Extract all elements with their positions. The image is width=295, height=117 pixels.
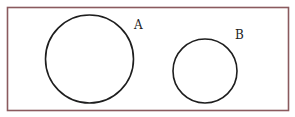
venn-diagram: A B: [0, 0, 295, 117]
set-b-label: B: [235, 28, 244, 42]
set-a-circle: [46, 15, 134, 103]
universal-set-frame: [8, 8, 289, 111]
set-b-circle: [173, 39, 237, 103]
set-a-label: A: [133, 18, 143, 32]
